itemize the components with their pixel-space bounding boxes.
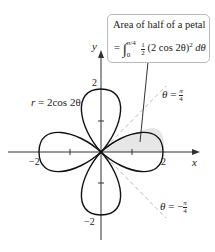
- differential: dθ: [195, 42, 205, 53]
- curve-label: r = 2cos 2θ: [31, 96, 81, 108]
- area-callout: Area of half of a petal = ∫π/40 12 (2 co…: [107, 14, 210, 63]
- limits: π/40: [127, 37, 139, 61]
- tick-x-neg: −2: [29, 156, 40, 167]
- callout-formula: = ∫π/40 12 (2 cos 2θ)2 dθ: [114, 37, 206, 61]
- half-fraction: 12: [141, 42, 145, 57]
- label-theta-pi-4: θ = π4: [162, 88, 183, 103]
- power: 2: [189, 41, 193, 49]
- x-axis-arrow: [192, 149, 200, 155]
- tick-x-pos: 2: [161, 156, 166, 167]
- line-theta-neg-pi-4: [101, 152, 166, 218]
- tick-y-neg: −2: [84, 216, 95, 227]
- y-axis-arrow: [98, 50, 104, 58]
- equals: =: [114, 42, 120, 53]
- tick-y-pos: 2: [92, 77, 97, 88]
- label-theta-neg-pi-4: θ = −π4: [160, 200, 187, 215]
- x-axis-label: x: [192, 156, 197, 168]
- callout-title: Area of half of a petal: [113, 19, 205, 30]
- y-axis-label: y: [92, 40, 97, 52]
- integrand: (2 cos 2θ): [147, 42, 189, 53]
- origin-dot: [99, 150, 102, 153]
